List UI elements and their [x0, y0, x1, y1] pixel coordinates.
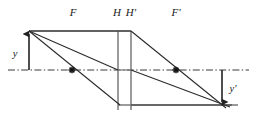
label-image-height: y' — [229, 83, 238, 94]
optical-ray-diagram: F H H' F' y y' — [0, 0, 253, 125]
label-object-height: y — [12, 48, 18, 59]
label-front-focal-point: F — [69, 6, 77, 18]
label-principal-plane-object: H — [112, 6, 122, 18]
label-back-focal-point: F' — [170, 6, 181, 18]
diagram-canvas: F H H' F' y y' — [0, 0, 253, 125]
focal-point-F-marker — [69, 67, 76, 73]
focal-point-F-prime-marker — [173, 67, 180, 73]
ray-chief-incident — [29, 31, 118, 70]
label-principal-plane-image: H' — [125, 6, 137, 18]
ray-chief-emergent — [131, 70, 230, 107]
